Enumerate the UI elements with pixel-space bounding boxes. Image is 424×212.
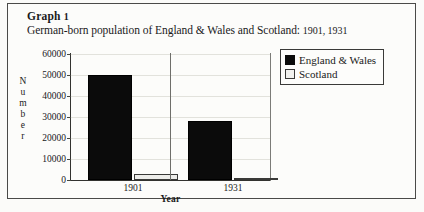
legend-swatch-open-icon	[285, 69, 295, 79]
y-axis-tick	[67, 75, 71, 76]
y-axis-tick-labels: 0100002000030000400005000060000	[22, 54, 66, 180]
legend-item-england-wales: England & Wales	[285, 53, 376, 67]
figure-page: Graph 1 German-born population of Englan…	[0, 0, 424, 212]
y-axis-tick	[67, 180, 71, 181]
plot-right-border	[270, 53, 271, 181]
x-axis-title: Year	[71, 194, 270, 204]
x-axis-label-1931: 1931	[203, 183, 263, 193]
x-axis-label-1901: 1901	[103, 183, 163, 193]
bar-1901-england-wales	[88, 75, 132, 180]
figure-label-text: Graph	[27, 10, 61, 22]
legend-label: England & Wales	[299, 54, 376, 66]
bar-1931-england-wales	[188, 121, 232, 180]
figure-caption: German-born population of England & Wale…	[27, 24, 347, 36]
y-axis-tick-label: 60000	[42, 49, 66, 59]
bar-1931-scotland	[234, 178, 278, 180]
y-axis-tick-label: 0	[61, 175, 66, 185]
x-axis-line	[70, 180, 271, 181]
y-axis-tick	[67, 117, 71, 118]
legend-swatch-filled-icon	[285, 55, 295, 65]
y-axis-tick-label: 10000	[42, 154, 66, 164]
legend: England & Wales Scotland	[280, 49, 384, 85]
y-axis-tick	[67, 138, 71, 139]
figure-number: 1	[64, 11, 69, 22]
figure-caption-years: 1901, 1931	[303, 25, 348, 36]
y-axis-tick-label: 40000	[42, 91, 66, 101]
figure-label: Graph 1	[27, 10, 69, 22]
y-axis-tick-label: 20000	[42, 133, 66, 143]
y-axis-tick	[67, 96, 71, 97]
y-axis-tick	[67, 159, 71, 160]
figure-caption-main: German-born population of England & Wale…	[27, 24, 300, 36]
y-axis-tick	[67, 54, 71, 55]
figure-frame: Graph 1 German-born population of Englan…	[7, 3, 416, 199]
category-separator	[170, 53, 171, 180]
bar-1901-scotland	[134, 174, 178, 180]
y-axis-tick-label: 30000	[42, 112, 66, 122]
y-axis-tick-label: 50000	[42, 70, 66, 80]
legend-item-scotland: Scotland	[285, 67, 376, 81]
legend-label: Scotland	[299, 68, 338, 80]
